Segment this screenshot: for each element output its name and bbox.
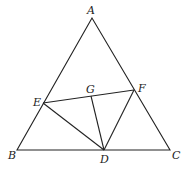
geometry-figure: A B C D E F G bbox=[0, 0, 185, 181]
label-e: E bbox=[32, 96, 41, 109]
label-f: F bbox=[137, 82, 146, 95]
segment-fd bbox=[104, 90, 134, 150]
label-d: D bbox=[99, 153, 109, 166]
label-b: B bbox=[7, 149, 16, 162]
label-g: G bbox=[86, 83, 95, 96]
label-c: C bbox=[172, 149, 181, 162]
label-a: A bbox=[86, 4, 95, 17]
